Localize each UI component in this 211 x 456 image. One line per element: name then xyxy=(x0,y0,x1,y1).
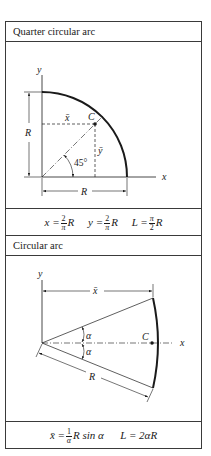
radius-label-vertical: R xyxy=(24,127,31,138)
y-axis-label: y xyxy=(37,268,43,279)
y-axis-label: y xyxy=(36,64,42,75)
alpha-upper-label: α xyxy=(86,330,92,341)
alpha-arc-upper xyxy=(82,327,84,342)
angle-label: 45° xyxy=(74,158,88,168)
dimension-arrow xyxy=(39,353,86,372)
centroid-label: C xyxy=(88,111,95,122)
x-axis-label: x xyxy=(161,171,167,182)
angle-arc xyxy=(64,155,73,177)
centroid-point xyxy=(150,341,154,345)
radius-label-horizontal: R xyxy=(80,186,87,197)
lower-radius xyxy=(42,343,153,388)
upper-radius xyxy=(42,298,153,343)
ybar-label: ȳ xyxy=(97,145,103,156)
extension-line xyxy=(147,389,153,402)
alpha-arc-lower xyxy=(82,344,84,359)
x-axis-label: x xyxy=(179,337,185,348)
quarter-arc-diagram: y x R R x̄ ȳ 45° C xyxy=(24,64,167,197)
alpha-lower-label: α xyxy=(86,346,92,357)
extension-line xyxy=(36,344,42,357)
centroid-label: C xyxy=(142,331,149,342)
xbar-label: x̄ xyxy=(92,285,98,296)
radius-label: R xyxy=(88,371,95,382)
xbar-label: x̄ xyxy=(64,112,70,123)
dimension-arrow xyxy=(101,378,148,397)
diagrams-layer: y x R R x̄ ȳ 45° C y xyxy=(0,0,211,456)
centroid-point xyxy=(93,122,97,126)
circular-arc-diagram: y x̄ x α α R C xyxy=(36,268,185,402)
